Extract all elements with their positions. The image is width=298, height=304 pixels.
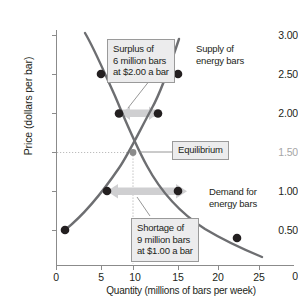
demand-label-line-2: energy bars xyxy=(209,198,257,210)
surplus-line-3: at $2.00 a bar xyxy=(113,66,169,78)
surplus-callout: Surplus of 6 million bars at $2.00 a bar xyxy=(107,39,175,83)
equilibrium-label: Equilibrium xyxy=(178,144,223,156)
shortage-callout: Shortage of 9 million bars at $1.00 a ba… xyxy=(131,218,199,262)
demand-point-q22-p050 xyxy=(233,234,242,243)
surplus-line-2: 6 million bars xyxy=(113,55,169,67)
equilibrium-point xyxy=(130,149,137,156)
demand-point-q5-p250 xyxy=(97,70,106,79)
equilibrium-callout: Equilibrium xyxy=(172,141,229,160)
shortage-line-1: Shortage of xyxy=(137,222,193,234)
supply-curve-label: Supply of energy bars xyxy=(196,43,244,66)
supply-label-line-1: Supply of xyxy=(196,43,244,55)
supply-demand-chart: 3.00 2.50 2.00 1.50 1.00 0.50 0 0 5 10 1… xyxy=(0,0,298,304)
surplus-leader-line xyxy=(128,80,150,108)
shortage-line-2: 9 million bars xyxy=(137,234,193,246)
supply-point-q15-p250 xyxy=(174,70,183,79)
supply-point-q1-p050 xyxy=(61,226,70,235)
demand-label-line-1: Demand for xyxy=(209,186,257,198)
supply-point-q15-p100 xyxy=(174,187,183,196)
demand-point-q13-p200 xyxy=(154,109,163,118)
demand-point-q6-p100 xyxy=(103,187,112,196)
shortage-line-3: at $1.00 a bar xyxy=(137,245,193,257)
surplus-line-1: Surplus of xyxy=(113,43,169,55)
demand-curve-label: Demand for energy bars xyxy=(209,186,257,209)
supply-label-line-2: energy bars xyxy=(196,55,244,67)
shortage-leader-line xyxy=(137,197,150,216)
supply-point-q7-p200 xyxy=(115,109,124,118)
